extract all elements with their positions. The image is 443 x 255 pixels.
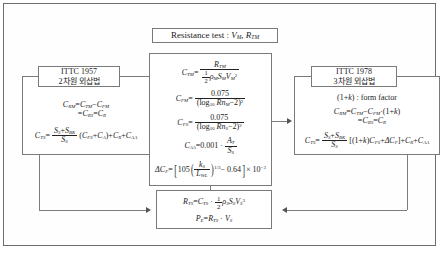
left-cfs-subscript: FS <box>87 134 93 139</box>
ittc-1957-body-box: CRM=CTM−CFM =CRS=CR CTS= SS+SBK SS (CFS+… <box>22 76 150 155</box>
log-label-2: log <box>199 122 209 131</box>
cfs-exponent: 2 <box>239 123 241 128</box>
left-cr-subscript: R <box>103 113 106 118</box>
equation-caa: CAA=0.001 · AT SS <box>184 137 236 155</box>
right-ss-den-subscript: S <box>335 144 337 149</box>
right-bracket-open: [(1+ <box>349 135 363 144</box>
one-half-den: 2 <box>202 78 209 85</box>
cfs-denominator: (log10 RnS−2)2 <box>195 123 244 132</box>
ittc-1978-title: ITTC 1978 <box>336 67 372 77</box>
center-formula-box: CTM= RTM 12ρMSMVM2 CFM= 0.075 (log10 RnM… <box>149 53 272 186</box>
form-factor-suffix: ) : form factor <box>352 93 397 102</box>
right-equation-cts: CTS= SS+SBK SS [(1+k)CFS+ΔCF]+CR+CAA <box>305 132 429 150</box>
pe-vs-subscript: S <box>230 218 232 223</box>
delta-cf-scale: × 10 <box>246 164 261 173</box>
resistance-test-prefix: Resistance test : <box>171 30 229 40</box>
form-factor-prefix: (1+ <box>337 93 348 102</box>
paren-close: ) <box>211 163 214 177</box>
vm-exponent: 2 <box>235 73 237 78</box>
resistance-test-label: Resistance test : VM, RTM <box>171 31 259 41</box>
ittc-1978-header-box: ITTC 1978 3차원 외삽법 <box>311 66 397 87</box>
form-factor-note: (1+k) : form factor <box>337 94 397 102</box>
right-cr-term-subscript: R <box>410 139 413 144</box>
right-bracket-close: ] <box>398 135 401 144</box>
connector-right-to-bottom <box>287 210 407 211</box>
log-base: 10 <box>210 103 215 108</box>
right-formfactor-close: ) <box>398 107 401 116</box>
one-half: 12 <box>202 70 209 84</box>
equation-rts: RTS=CTS · 12ρSSSVS3 <box>183 195 245 210</box>
right-caa-subscript: AA <box>423 139 429 144</box>
delta-cf-equals: = <box>168 164 173 173</box>
right-area-fraction: SS+SBK SS <box>322 132 347 150</box>
caa-denominator: SS <box>225 147 237 155</box>
at-subscript: T <box>232 140 235 145</box>
ittc-1957-header-box: ITTC 1957 2차원 외삽법 <box>38 66 120 87</box>
right-formfactor-open: (1+ <box>383 107 394 116</box>
delta-cf-scale-exponent: −3 <box>261 165 266 170</box>
cfs-equals: = <box>188 117 193 126</box>
delta-cf-constant: − 0.64 <box>221 164 242 173</box>
left-sbk-subscript: BK <box>69 130 75 135</box>
caa-fraction: AT SS <box>225 137 237 155</box>
cfs-fraction: 0.075 (log10 RnS−2)2 <box>195 114 244 132</box>
bottom-cts-subscript: TS <box>203 201 208 206</box>
cfm-minus-two: −2 <box>230 99 239 108</box>
pe-dot: · <box>220 214 223 223</box>
left-ca-subscript: A <box>103 134 106 139</box>
ctm-subscript: TM <box>187 72 194 77</box>
equation-delta-cf: ΔCF=[105(kSLWL)1/3− 0.64]× 10−3 <box>155 161 266 179</box>
rts-dot: · <box>210 197 213 206</box>
arrowhead-bottom-left <box>146 207 151 213</box>
right-cr-subscript: R <box>383 120 386 125</box>
equation-pe: PE=RTS · VS <box>196 215 233 224</box>
right-cts-equals: = <box>315 135 320 144</box>
left-caa-subscript: AA <box>131 134 137 139</box>
bracket-close: ] <box>242 162 245 177</box>
right-area-denominator: SS <box>322 141 347 149</box>
bracket-open: [ <box>174 162 177 177</box>
ks-subscript: S <box>202 164 204 169</box>
diagram-frame: Resistance test : VM, RTM CTM= RTM 12ρMS… <box>3 3 436 246</box>
cfm-fraction: 0.075 (log10 RnM−2)2 <box>195 90 246 108</box>
arrowhead-right <box>287 118 292 124</box>
left-ss-den-subscript: S <box>65 139 67 144</box>
ittc-1978-method: 3차원 외삽법 <box>334 77 375 87</box>
right-equation-crm: CRM=CTM−CFM·(1+k) =CRS=CR <box>334 108 400 126</box>
equation-cfs: CFS= 0.075 (log10 RnS−2)2 <box>177 114 243 132</box>
right-sbk-subscript: BK <box>339 135 345 140</box>
left-crm-line2: =CRS=CR <box>63 110 109 119</box>
arrowhead-bottom-right <box>282 207 287 213</box>
left-equation-crm: CRM=CTM−CFM =CRS=CR <box>63 101 109 119</box>
connector-left-to-bottom <box>39 210 146 211</box>
log-base-2: 10 <box>210 126 215 131</box>
ittc-1978-body-box: (1+k) : form factor CRM=CTM−CFM·(1+k) =C… <box>294 76 440 155</box>
left-cr-term-subscript: R <box>118 134 121 139</box>
bottom-result-box: RTS=CTS · 12ρSSSVS3 PE=RTS · VS <box>156 190 272 229</box>
cfs-minus-two: −2 <box>228 122 237 131</box>
equation-ctm: CTM= RTM 12ρMSMVM2 <box>182 61 240 85</box>
ss-subscript: S <box>232 150 234 155</box>
lwl-subscript: WL <box>201 173 208 178</box>
left-area-denominator: SS <box>52 136 77 144</box>
ctm-denominator: 12ρMSMVM2 <box>200 70 239 84</box>
delta-cf-symbol: ΔC <box>155 164 165 173</box>
right-crm-line2: =CRS=CR <box>334 117 400 126</box>
ittc-1957-title: ITTC 1957 <box>61 67 97 77</box>
pe-rts-subscript: TS <box>213 218 218 223</box>
left-cts-equals: = <box>45 130 50 139</box>
cfm-equals: = <box>188 94 193 103</box>
caa-value: 0.001 <box>200 141 218 150</box>
paren-open: ( <box>191 163 194 177</box>
title-separator: , <box>241 30 243 40</box>
ittc-1957-method: 2차원 외삽법 <box>59 77 100 87</box>
log-label: log <box>199 99 209 108</box>
resistance-test-title-box: Resistance test : VM, RTM <box>152 28 278 43</box>
rtm-subscript: TM <box>219 64 226 69</box>
resistance-model-subscript: TM <box>251 34 259 40</box>
ctm-fraction: RTM 12ρMSMVM2 <box>200 61 239 85</box>
left-equation-cts: CTS= SS+SBK SS (CFS+CA)+CR+CAA <box>35 127 137 145</box>
cfm-exponent: 2 <box>241 99 243 104</box>
roughness-fraction: kSLWL <box>194 161 209 179</box>
right-deltacf-symbol: ΔC <box>385 135 395 144</box>
